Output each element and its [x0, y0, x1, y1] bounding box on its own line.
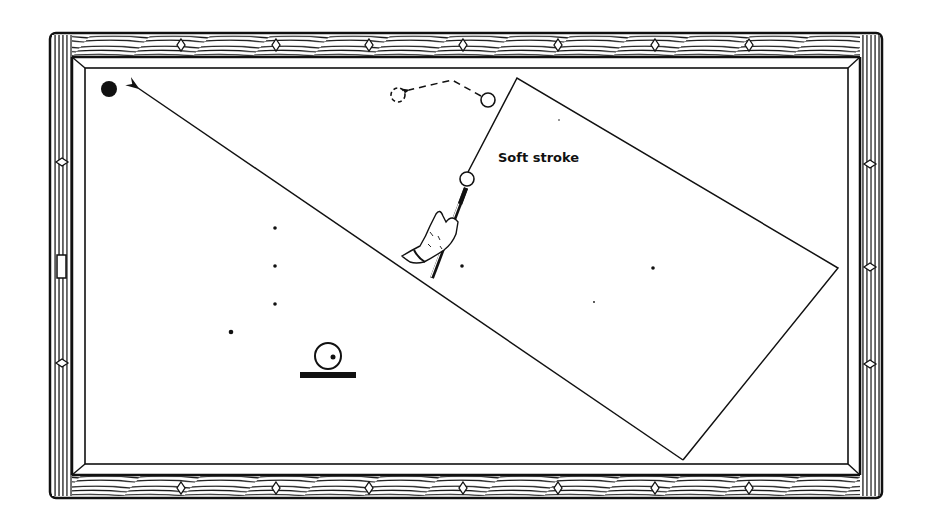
cue-ball	[460, 172, 474, 186]
table-spot	[460, 264, 464, 268]
outer-frame	[50, 33, 882, 498]
table-spot	[273, 226, 277, 230]
table-spot	[273, 264, 277, 268]
table-spot	[651, 266, 655, 270]
billiards-diagram	[0, 0, 931, 529]
object-ball	[481, 93, 495, 107]
side-pocket-marker	[57, 255, 66, 278]
table-spot	[558, 119, 560, 121]
soft-stroke-label: Soft stroke	[498, 150, 579, 165]
table-spot	[273, 302, 277, 306]
black-target-ball	[101, 81, 117, 97]
table-spot	[593, 301, 595, 303]
table-spot	[229, 330, 234, 335]
table-frame	[50, 33, 882, 498]
ghost-ball	[391, 88, 405, 102]
